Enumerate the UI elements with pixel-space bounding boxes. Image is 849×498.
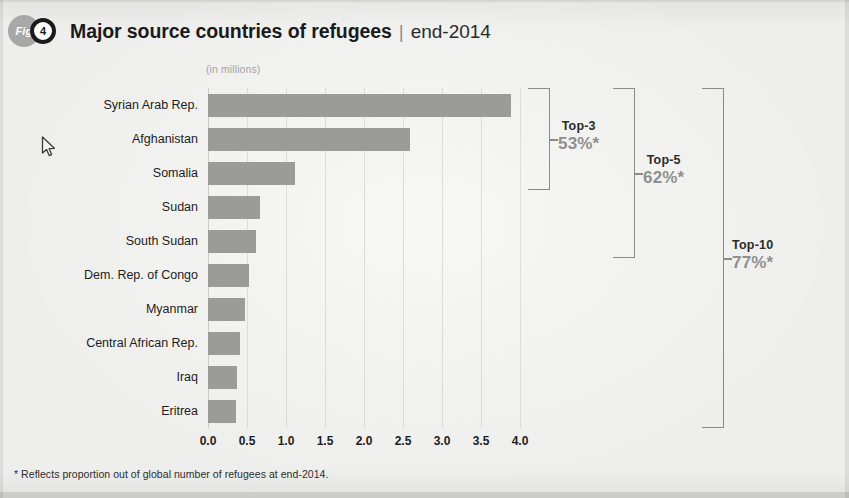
- x-axis-tick-label: 0.0: [188, 434, 228, 448]
- bar[interactable]: [208, 366, 237, 389]
- title-separator: |: [399, 21, 404, 43]
- bar[interactable]: [208, 128, 410, 151]
- footnote: * Reflects proportion out of global numb…: [14, 468, 328, 480]
- x-axis-tick-label: 1.5: [305, 434, 345, 448]
- gridline: [442, 88, 443, 428]
- annotation-label: Top-5: [643, 153, 684, 167]
- bar[interactable]: [208, 94, 511, 117]
- annotation-value: 62%*: [643, 168, 684, 188]
- y-axis-label: Dem. Rep. of Congo: [8, 264, 198, 287]
- x-axis-tick-label: 3.0: [422, 434, 462, 448]
- figure-header: Fig 4 Major source countries of refugees…: [8, 14, 491, 48]
- x-axis-tick-label: 1.0: [266, 434, 306, 448]
- bracket-tick: [635, 173, 643, 175]
- bracket-tick: [724, 258, 732, 260]
- page-edge-right: [845, 0, 849, 498]
- page-title: Major source countries of refugees: [70, 20, 392, 43]
- annotation-value: 77%*: [732, 253, 773, 273]
- x-axis-tick-label: 3.5: [461, 434, 501, 448]
- x-axis-tick-label: 2.0: [344, 434, 384, 448]
- y-axis-label: Sudan: [8, 196, 198, 219]
- bar[interactable]: [208, 162, 295, 185]
- gridline: [520, 88, 521, 428]
- bracket-top-3: [528, 88, 550, 190]
- bar[interactable]: [208, 298, 245, 321]
- title-wrap: Major source countries of refugees | end…: [70, 20, 491, 43]
- annotation-top-10: Top-1077%*: [732, 238, 773, 273]
- figure-number-badge: 4: [30, 18, 56, 44]
- chart-plot-area: Syrian Arab Rep.AfghanistanSomaliaSudanS…: [208, 88, 520, 428]
- gridline: [481, 88, 482, 428]
- annotation-top-3: Top-353%*: [558, 119, 599, 154]
- bracket-tick: [550, 139, 558, 141]
- bar[interactable]: [208, 196, 260, 219]
- y-axis-label: Central African Rep.: [8, 332, 198, 355]
- y-axis-label: Syrian Arab Rep.: [8, 94, 198, 117]
- y-axis-label: South Sudan: [8, 230, 198, 253]
- bracket-top-10: [702, 88, 724, 428]
- page-edge-left: [0, 0, 3, 498]
- y-axis-label: Iraq: [8, 366, 198, 389]
- bracket-top-5: [613, 88, 635, 258]
- page-edge-bottom: [0, 492, 849, 498]
- annotation-top-5: Top-562%*: [643, 153, 684, 188]
- y-axis-label: Myanmar: [8, 298, 198, 321]
- bar[interactable]: [208, 400, 236, 423]
- page-edge-top: [0, 0, 849, 2]
- annotation-label: Top-3: [558, 119, 599, 133]
- x-axis-tick-label: 0.5: [227, 434, 267, 448]
- figure-page: Fig 4 Major source countries of refugees…: [0, 0, 849, 498]
- y-axis-label: Somalia: [8, 162, 198, 185]
- x-axis-tick-label: 2.5: [383, 434, 423, 448]
- bar[interactable]: [208, 230, 256, 253]
- units-caption: (in millions): [206, 63, 260, 75]
- bar[interactable]: [208, 264, 249, 287]
- y-axis-label: Eritrea: [8, 400, 198, 423]
- bar[interactable]: [208, 332, 240, 355]
- mouse-pointer-icon: [41, 136, 57, 158]
- x-axis-tick-label: 4.0: [500, 434, 540, 448]
- annotation-value: 53%*: [558, 134, 599, 154]
- y-axis-label: Afghanistan: [8, 128, 198, 151]
- title-period: end-2014: [411, 21, 491, 43]
- annotation-label: Top-10: [732, 238, 773, 252]
